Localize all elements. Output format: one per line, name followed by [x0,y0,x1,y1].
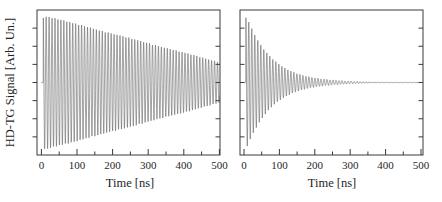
x-axis-label-left: Time [ns] [106,176,155,190]
x-tick-label: 200 [104,159,121,171]
signal-trace [244,18,421,146]
x-tick-label: 500 [211,159,228,171]
x-tick-label: 100 [271,159,288,171]
x-tick-label: 400 [377,159,394,171]
x-tick-label: 0 [39,159,45,171]
y-axis-label: HD-TG Signal [Arb. Un.] [3,18,17,148]
x-tick-label: 100 [69,159,86,171]
dual-panel-chart: 0100200300400500 0100200300400500 HD-TG … [0,0,442,202]
x-tick-label: 500 [413,159,430,171]
x-tick-label: 300 [140,159,157,171]
hd-tg-signal-figure: 0100200300400500 0100200300400500 HD-TG … [0,0,442,202]
x-tick-label: 200 [307,159,324,171]
x-axis-label-right: Time [ns] [308,176,357,190]
x-tick-label: 0 [241,159,247,171]
right-panel: 0100200300400500 [240,10,430,171]
x-tick-label: 400 [176,159,193,171]
left-panel: 0100200300400500 [33,10,229,171]
x-tick-label: 300 [342,159,359,171]
signal-trace [41,17,219,149]
